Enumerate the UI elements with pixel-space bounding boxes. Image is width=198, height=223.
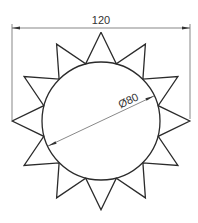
dimension-label-120: 120: [92, 14, 110, 26]
arrowhead-diameter-lower-icon: [48, 141, 57, 146]
dimension-line-diameter: [48, 96, 154, 146]
dimension-label-diameter: Ø80: [116, 91, 140, 111]
arrowhead-left-icon: [12, 27, 20, 30]
technical-drawing: 120 Ø80: [0, 0, 198, 223]
arrowhead-right-icon: [182, 27, 190, 30]
arrowhead-diameter-upper-icon: [145, 96, 154, 101]
